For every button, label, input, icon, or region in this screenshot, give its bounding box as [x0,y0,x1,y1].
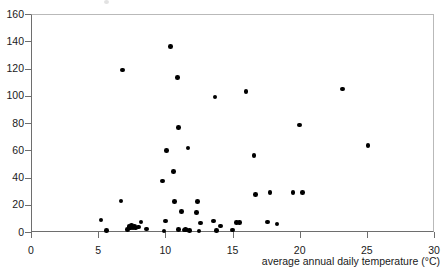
y-axis-tick-label-text: 0 [0,227,24,238]
data-point [168,44,173,49]
plot-area [31,14,434,232]
y-axis-tick-label: 0 [0,227,24,238]
data-point [164,148,169,153]
data-point [214,228,219,233]
data-point [195,199,200,204]
data-point [275,222,280,227]
data-point [265,220,270,225]
data-point [211,219,216,224]
data-point [366,143,371,148]
x-axis-tick [367,232,368,238]
y-axis-tick-label-text: 140 [0,36,24,47]
data-point [198,221,203,226]
data-point [104,228,109,233]
data-point [268,190,273,195]
data-point [144,227,149,232]
data-point [120,68,125,73]
data-point [297,123,302,128]
y-axis-tick-label: 120 [0,63,24,74]
x-axis-tick [31,232,32,238]
data-point [213,95,218,100]
data-point [300,190,305,195]
data-point [186,146,191,151]
x-axis-tick [98,232,99,238]
y-axis-tick-label: 100 [0,90,24,101]
data-point [244,89,249,94]
data-point [119,199,124,204]
y-axis-tick-label-text: 40 [0,172,24,183]
y-axis-tick-label-text: 120 [0,63,24,74]
data-point [179,209,184,214]
data-point [291,190,296,195]
data-point [187,228,192,233]
data-point [171,169,176,174]
data-point [99,218,104,223]
data-point [175,75,180,80]
data-point [139,220,144,225]
data-point [136,225,141,230]
x-axis-tick [434,232,435,238]
data-point [194,210,199,215]
data-point [176,125,181,130]
y-axis-tick-label: 40 [0,172,24,183]
x-axis-tick [300,232,301,238]
x-axis-tick [165,232,166,238]
y-axis-tick-label: 60 [0,145,24,156]
y-axis-tick-label: 20 [0,199,24,210]
data-point [252,153,257,158]
data-point [160,179,165,184]
y-axis-tick-label-text: 60 [0,145,24,156]
y-axis-tick-label: 160 [0,9,24,20]
data-point [237,220,242,225]
data-point [340,87,345,92]
data-point [176,227,181,232]
data-point [163,219,168,224]
y-axis-tick-label: 140 [0,36,24,47]
y-axis-tick-label-text: 20 [0,199,24,210]
x-axis-title: average annual daily temperature (°C) [0,255,440,267]
cropped-title-artifact [104,0,109,4]
data-point [172,199,177,204]
y-axis-tick-label-text: 80 [0,118,24,129]
scatter-plot-figure: 020406080100120140160 051015202530 avera… [0,0,446,273]
data-point [230,228,235,233]
data-point [253,192,258,197]
y-axis-tick-label: 80 [0,118,24,129]
y-axis-tick-label-text: 100 [0,90,24,101]
data-point [218,224,223,229]
data-point [197,229,202,234]
x-axis-tick [233,232,234,238]
y-axis-tick-label-text: 160 [0,9,24,20]
